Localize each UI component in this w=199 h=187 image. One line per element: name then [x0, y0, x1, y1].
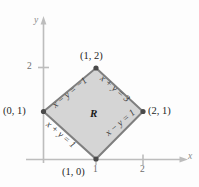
vertex-label-bottom: (1, 0) — [62, 167, 85, 178]
x-tick-label-2: 2 — [140, 165, 145, 175]
vertex-label-right: (2, 1) — [148, 106, 171, 117]
vertex-label-top: (1, 2) — [80, 51, 103, 62]
x-axis — [26, 157, 188, 163]
plot-graphics — [0, 0, 199, 187]
x-axis-label: x — [188, 152, 192, 162]
y-tick-label-2: 2 — [27, 62, 32, 72]
y-axis — [41, 16, 47, 163]
vertex-label-left: (0, 1) — [3, 106, 26, 117]
y-axis-label: y — [34, 16, 38, 26]
x-tick-label-1: 1 — [93, 165, 98, 175]
region-label: R — [90, 108, 97, 119]
figure-canvas: y x 2 1 2 (1, 2) (2, 1) (1, 0) (0, 1) R … — [0, 0, 199, 187]
